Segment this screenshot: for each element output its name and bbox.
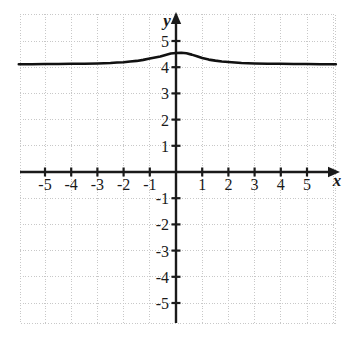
y-tick-label: 2	[161, 112, 169, 129]
y-tick-label: -5	[156, 295, 169, 312]
x-tick-label: 1	[198, 176, 206, 193]
x-tick-label: 2	[224, 176, 232, 193]
x-tick-label: -1	[143, 176, 156, 193]
coordinate-graph: -5-4-3-2-11234554321-1-2-3-4-5 x y	[0, 0, 351, 339]
plot-svg: -5-4-3-2-11234554321-1-2-3-4-5 x y	[0, 0, 351, 339]
x-tick-label: 3	[251, 176, 259, 193]
y-tick-label: 3	[161, 85, 169, 102]
x-tick-label: -3	[91, 176, 104, 193]
y-axis-label: y	[161, 11, 171, 30]
y-tick-label: 4	[161, 59, 169, 76]
x-tick-label: 5	[303, 176, 311, 193]
y-tick-label: 1	[161, 138, 169, 155]
x-tick-label: -5	[38, 176, 51, 193]
y-tick-label: 5	[161, 33, 169, 50]
y-tick-label: -4	[156, 269, 169, 286]
y-tick-label: -3	[156, 243, 169, 260]
x-tick-label: -2	[117, 176, 130, 193]
x-axis-label: x	[332, 171, 342, 190]
x-tick-label: 4	[277, 176, 285, 193]
y-tick-label: -1	[156, 190, 169, 207]
x-tick-label: -4	[65, 176, 78, 193]
y-tick-label: -2	[156, 216, 169, 233]
